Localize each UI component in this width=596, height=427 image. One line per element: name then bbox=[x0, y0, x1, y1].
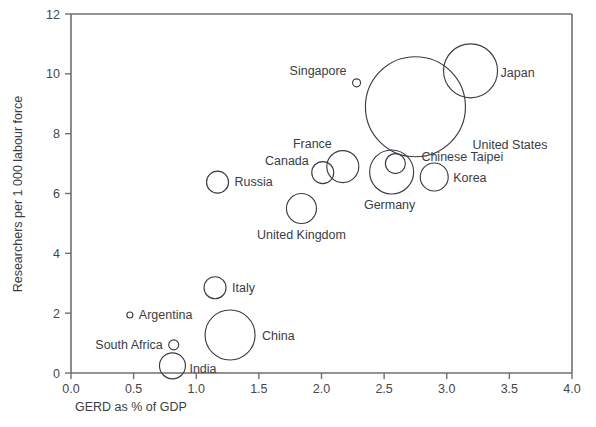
y-tick-label: 8 bbox=[53, 127, 60, 141]
bubble-label-china: China bbox=[262, 329, 295, 343]
bubble-label-france: France bbox=[293, 137, 332, 151]
bubble-south-africa bbox=[169, 340, 179, 350]
bubble-label-russia: Russia bbox=[235, 175, 273, 189]
bubble-singapore bbox=[353, 79, 361, 87]
y-axis-title: Researchers per 1 000 labour force bbox=[11, 96, 25, 293]
bubble-label-chinese-taipei: Chinese Taipei bbox=[421, 150, 503, 164]
axis-titles-group: GERD as % of GDPResearchers per 1 000 la… bbox=[11, 96, 187, 414]
plot-svg: 0246810120.00.51.01.52.02.53.03.54.0 Jap… bbox=[0, 0, 596, 427]
bubble-label-united-kingdom: United Kingdom bbox=[257, 228, 346, 242]
bubble-india bbox=[159, 353, 185, 379]
bubble-argentina bbox=[127, 312, 133, 318]
bubble-korea bbox=[420, 163, 448, 191]
x-tick-label: 1.5 bbox=[250, 382, 267, 396]
bubble-label-italy: Italy bbox=[232, 281, 256, 295]
bubble-label-south-africa: South Africa bbox=[95, 338, 162, 352]
bubble-japan bbox=[444, 44, 498, 98]
y-tick-label: 6 bbox=[53, 187, 60, 201]
bubble-united-states bbox=[365, 57, 465, 157]
bubble-label-canada: Canada bbox=[265, 154, 309, 168]
x-axis-title: GERD as % of GDP bbox=[75, 400, 187, 414]
bubbles-group bbox=[127, 44, 498, 379]
bubble-united-kingdom bbox=[286, 193, 316, 223]
y-tick-label: 10 bbox=[46, 67, 60, 81]
x-tick-label: 3.5 bbox=[501, 382, 518, 396]
bubble-chinese-taipei bbox=[385, 154, 405, 174]
x-tick-label: 3.0 bbox=[438, 382, 455, 396]
y-tick-label: 4 bbox=[53, 247, 60, 261]
bubble-label-singapore: Singapore bbox=[290, 64, 347, 78]
bubble-label-japan: Japan bbox=[501, 66, 535, 80]
bubble-italy bbox=[204, 277, 226, 299]
bubble-canada bbox=[312, 162, 334, 184]
x-tick-label: 1.0 bbox=[188, 382, 205, 396]
x-tick-label: 2.0 bbox=[313, 382, 330, 396]
y-tick-label: 2 bbox=[53, 307, 60, 321]
y-tick-label: 12 bbox=[46, 8, 60, 22]
bubble-russia bbox=[207, 171, 229, 193]
bubble-label-india: India bbox=[189, 362, 216, 376]
bubble-label-argentina: Argentina bbox=[139, 308, 193, 322]
y-tick-label: 0 bbox=[53, 367, 60, 381]
x-tick-label: 2.5 bbox=[375, 382, 392, 396]
bubble-label-germany: Germany bbox=[364, 198, 416, 212]
bubble-labels-group: JapanUnited StatesSingaporeFranceCanadaC… bbox=[95, 64, 547, 376]
bubble-label-korea: Korea bbox=[453, 171, 486, 185]
x-tick-label: 4.0 bbox=[563, 382, 580, 396]
bubble-chart: 0246810120.00.51.01.52.02.53.03.54.0 Jap… bbox=[0, 0, 596, 427]
x-tick-label: 0.0 bbox=[62, 382, 79, 396]
bubble-germany bbox=[370, 150, 414, 194]
bubble-china bbox=[205, 310, 255, 360]
x-tick-label: 0.5 bbox=[125, 382, 142, 396]
